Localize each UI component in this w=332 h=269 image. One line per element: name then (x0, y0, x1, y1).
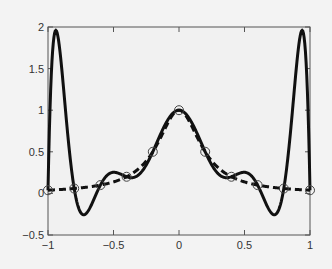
x-tick-label: −0.5 (103, 239, 125, 251)
y-tick-label: 1.5 (29, 63, 44, 75)
plot-background (48, 27, 310, 235)
y-tick-label: 1 (38, 104, 44, 116)
x-tick-label: −1 (42, 239, 55, 251)
x-tick-label: 0.5 (237, 239, 252, 251)
y-tick-label: 0.5 (29, 146, 44, 158)
y-tick-label: 0 (38, 187, 44, 199)
figure: −0.500.511.52 −1−0.500.51 (0, 0, 332, 269)
y-tick-label: 2 (38, 21, 44, 33)
x-tick-label: 1 (307, 239, 313, 251)
runge-plot: −0.500.511.52 −1−0.500.51 (0, 0, 332, 269)
x-tick-label: 0 (176, 239, 182, 251)
